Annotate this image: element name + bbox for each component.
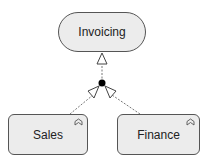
generalization-arrowhead-sales bbox=[88, 86, 99, 98]
node-label: Sales bbox=[33, 128, 63, 142]
node-sales[interactable]: Sales bbox=[8, 114, 88, 155]
generalization-arrowhead-finance bbox=[105, 86, 116, 98]
node-label: Invoicing bbox=[78, 25, 125, 39]
node-finance[interactable]: Finance bbox=[117, 114, 200, 155]
connector-finance bbox=[112, 95, 140, 114]
generalization-arrowhead-parent bbox=[97, 53, 107, 64]
function-icon bbox=[74, 118, 83, 126]
node-label: Finance bbox=[137, 128, 180, 142]
function-icon bbox=[186, 118, 195, 126]
connector-sales bbox=[70, 95, 93, 114]
node-invoicing[interactable]: Invoicing bbox=[58, 12, 146, 52]
